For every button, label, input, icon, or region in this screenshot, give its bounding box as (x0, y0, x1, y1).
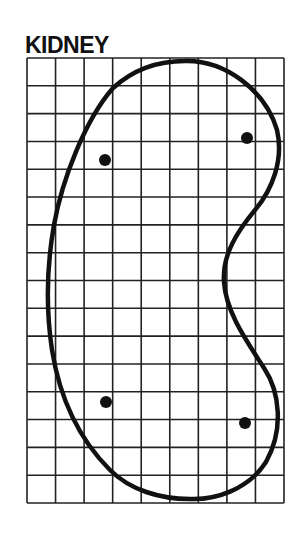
lower-right-dot (239, 417, 251, 429)
upper-left-dot (99, 154, 111, 166)
lower-left-dot (100, 396, 112, 408)
upper-right-dot (241, 132, 253, 144)
kidney-grid-diagram (0, 0, 305, 537)
grid (27, 58, 284, 503)
